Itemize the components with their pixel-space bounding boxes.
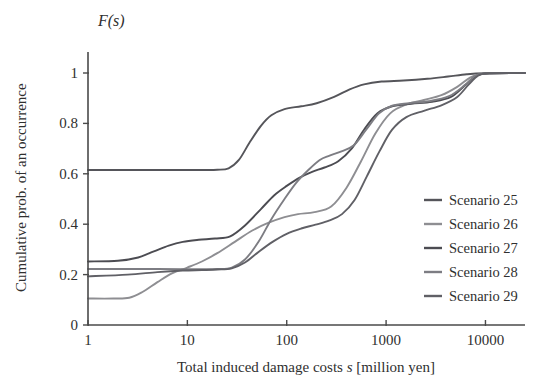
y-tick-label: 0.6 <box>59 166 78 182</box>
fs-axis-label: F(s) <box>97 12 125 30</box>
legend-label-scenario-25: Scenario 25 <box>449 192 518 208</box>
legend-label-scenario-29: Scenario 29 <box>449 288 518 304</box>
y-tick-label: 0.4 <box>59 216 78 232</box>
x-axis-title-pre: Total induced damage costs <box>177 359 347 375</box>
y-tick-label: 0 <box>71 317 79 333</box>
x-tick-label: 10 <box>180 332 195 348</box>
legend-label-scenario-27: Scenario 27 <box>449 240 518 256</box>
y-tick-label: 0.2 <box>59 267 78 283</box>
x-axis-title-post: [million yen] <box>353 359 436 375</box>
y-tick-label: 0.8 <box>59 115 78 131</box>
x-axis-title: Total induced damage costs s [million ye… <box>177 359 435 375</box>
legend-label-scenario-28: Scenario 28 <box>449 264 518 280</box>
x-tick-label: 1 <box>84 332 92 348</box>
legend-label-scenario-26: Scenario 26 <box>449 216 518 232</box>
y-axis-title: Cumulative prob. of an occurrence <box>13 83 29 292</box>
x-tick-label: 100 <box>275 332 298 348</box>
x-tick-label: 10000 <box>467 332 505 348</box>
x-tick-label: 1000 <box>371 332 401 348</box>
cumulative-probability-chart: 00.20.40.60.81 110100100010000 F(s) Cumu… <box>0 0 543 388</box>
y-tick-label: 1 <box>71 65 79 81</box>
